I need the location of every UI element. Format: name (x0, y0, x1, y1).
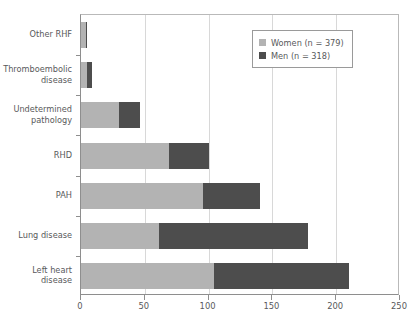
x-axis-tick-label: 150 (263, 301, 279, 311)
bar-segment-women (81, 263, 214, 289)
x-axis-tick-label: 200 (327, 301, 343, 311)
y-axis-category-label: RHD (0, 149, 72, 160)
x-axis-tick (335, 295, 336, 300)
y-axis-tick (76, 216, 81, 217)
legend-label: Women (n = 379) (271, 38, 344, 48)
y-axis-category-label: Other RHF (0, 29, 72, 40)
y-axis-labels: Other RHFThromboembolic diseaseUndetermi… (0, 14, 76, 295)
x-axis-tick-label: 50 (138, 301, 149, 311)
y-axis-category-label: Left heart disease (0, 264, 72, 285)
bar-row (81, 183, 260, 209)
legend-item: Women (n = 379) (259, 36, 344, 49)
x-axis-tick (208, 295, 209, 300)
bar-segment-men (87, 62, 92, 88)
bar-row (81, 223, 308, 249)
y-axis-category-label: Undetermined pathology (0, 104, 72, 125)
x-axis-tick-label: 0 (77, 301, 82, 311)
gridline (209, 15, 210, 294)
x-axis-tick-label: 250 (391, 301, 407, 311)
bar-row (81, 22, 87, 48)
y-axis-category-label: Lung disease (0, 230, 72, 241)
chart-legend: Women (n = 379)Men (n = 318) (252, 30, 353, 68)
x-axis-tick (271, 295, 272, 300)
bar-segment-men (159, 223, 308, 249)
x-axis-tick (144, 295, 145, 300)
legend-label: Men (n = 318) (271, 51, 330, 61)
bar-row (81, 143, 209, 169)
y-axis-tick (76, 135, 81, 136)
bar-row (81, 102, 140, 128)
bar-segment-women (81, 102, 119, 128)
y-axis-tick (76, 256, 81, 257)
stacked-bar-chart: Other RHFThromboembolic diseaseUndetermi… (0, 0, 418, 328)
bar-segment-men (86, 22, 87, 48)
y-axis-tick (76, 95, 81, 96)
y-axis-category-label: PAH (0, 189, 72, 200)
bar-segment-women (81, 223, 159, 249)
legend-item: Men (n = 318) (259, 49, 344, 62)
bar-row (81, 62, 92, 88)
bar-segment-women (81, 183, 203, 209)
legend-swatch-icon (259, 52, 266, 59)
bar-segment-men (119, 102, 139, 128)
bar-segment-men (214, 263, 349, 289)
bar-row (81, 263, 349, 289)
y-axis-tick (76, 55, 81, 56)
x-axis-tick-label: 100 (200, 301, 216, 311)
x-axis-tick-labels: 050100150200250 (80, 301, 399, 315)
legend-swatch-icon (259, 39, 266, 46)
x-axis-tick (399, 295, 400, 300)
bar-segment-men (169, 143, 209, 169)
y-axis-tick (76, 176, 81, 177)
y-axis-category-label: Thromboembolic disease (0, 64, 72, 85)
x-axis-tick (80, 295, 81, 300)
bar-segment-women (81, 143, 169, 169)
bar-segment-men (203, 183, 259, 209)
